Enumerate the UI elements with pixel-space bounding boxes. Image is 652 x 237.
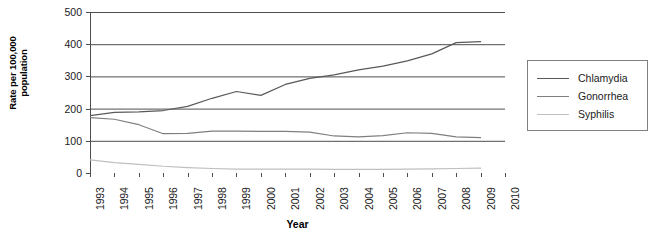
legend-item: Gonorrhea [528,87,647,105]
y-axis-title-line1: Rate per 100,000 [7,36,18,109]
x-tick-label: 1998 [216,187,228,210]
y-tick-label: 400 [44,39,82,49]
x-tick-label: 1994 [118,187,130,210]
series-line-syphilis [90,160,481,170]
x-tick-label: 2001 [289,187,301,210]
x-tick-label: 2000 [265,187,277,210]
y-axis-title-line2: population [18,49,29,97]
y-tick-label: 200 [44,104,82,114]
legend-label: Syphilis [578,108,614,120]
y-axis-title-container: Rate per 100,000 population [0,0,40,180]
x-tick-label: 1997 [192,187,204,210]
legend-line-swatch [537,78,569,79]
legend-item: Chlamydia [528,69,647,87]
plot-area [90,12,505,173]
legend-line-swatch [537,114,569,115]
x-tick-label: 2005 [387,187,399,210]
y-tick-label: 300 [44,71,82,81]
chart-figure: Rate per 100,000 population 010020030040… [0,0,652,237]
x-tick-label: 1999 [240,187,252,210]
y-tick-label: 100 [44,136,82,146]
plot-svg [90,12,505,173]
series-line-gonorrhea [90,118,481,138]
x-tick-label: 1996 [167,187,179,210]
y-tick-label: 500 [44,7,82,17]
legend-line-swatch [537,96,569,97]
x-tick-label: 1993 [94,187,106,210]
x-tick-label: 2007 [436,187,448,210]
series-line-chlamydia [90,42,481,116]
x-tick-label: 1995 [143,187,155,210]
x-tick-label: 2010 [509,187,521,210]
chart-legend: ChlamydiaGonorrheaSyphilis [527,60,648,131]
x-tick-label: 2009 [485,187,497,210]
legend-label: Chlamydia [578,72,628,84]
x-tick-label: 2003 [338,187,350,210]
legend-item: Syphilis [528,105,647,123]
legend-label: Gonorrhea [578,90,628,102]
x-tick-label: 2006 [411,187,423,210]
x-tick-label: 2002 [314,187,326,210]
x-axis-ticks: 1993199419951996199719981999200020012002… [0,176,652,218]
x-axis-title: Year [90,218,505,230]
x-tick-label: 2008 [460,187,472,210]
x-tick-label: 2004 [363,187,375,210]
y-axis-title: Rate per 100,000 population [7,0,29,148]
